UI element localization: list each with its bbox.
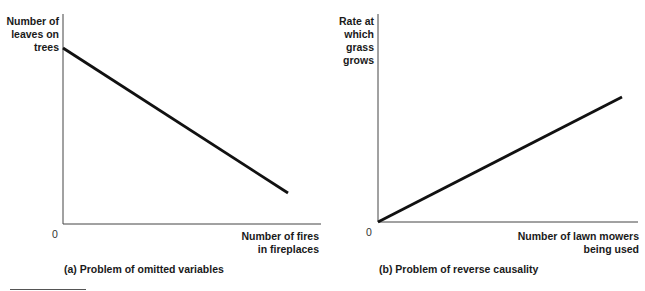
caption-b: (b) Problem of reverse causality bbox=[379, 263, 538, 275]
footnote-separator bbox=[10, 289, 86, 290]
figure-omitted-variables: Number of leaves on trees 0 Number of fi… bbox=[0, 0, 322, 291]
x-axis-label-a: Number of fires in fireplaces bbox=[241, 230, 319, 256]
origin-label-a: 0 bbox=[52, 228, 58, 240]
figure-reverse-causality: Rate at which grass grows 0 Number of la… bbox=[322, 0, 645, 291]
trend-line-b bbox=[378, 97, 622, 222]
x-axis-label-b: Number of lawn mowers being used bbox=[518, 230, 639, 256]
origin-label-b: 0 bbox=[366, 226, 372, 238]
caption-a: (a) Problem of omitted variables bbox=[64, 263, 224, 275]
y-axis-label-a: Number of leaves on trees bbox=[7, 15, 60, 54]
y-axis-label-b: Rate at which grass grows bbox=[339, 15, 374, 67]
trend-line-a bbox=[63, 48, 288, 193]
